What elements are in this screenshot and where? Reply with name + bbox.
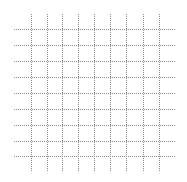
- dotted-grid: [0, 0, 187, 182]
